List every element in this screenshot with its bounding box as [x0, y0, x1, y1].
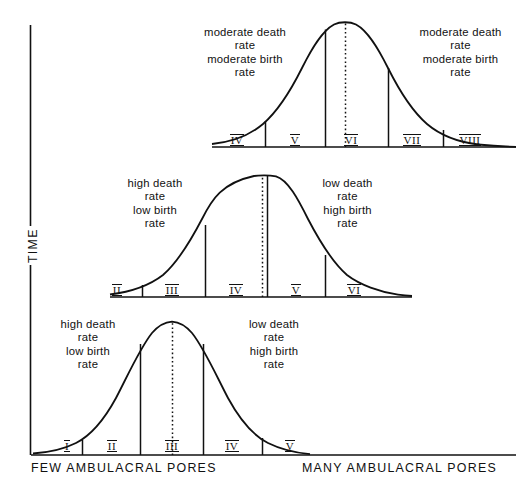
- numeral-bottom-4: V: [278, 440, 302, 452]
- numeral-top-1: V: [283, 134, 307, 146]
- annotation-top-right: moderate death rate moderate birth rate: [398, 26, 523, 80]
- numeral-middle-2: IV: [224, 284, 248, 296]
- numeral-top-3: VII: [400, 134, 424, 146]
- numeral-middle-0: II: [105, 284, 129, 296]
- numeral-middle-3: V: [284, 284, 308, 296]
- annotation-bottom-left: high death rate low birth rate: [28, 318, 148, 372]
- annotation-middle-left: high death rate low birth rate: [95, 177, 215, 231]
- numeral-top-2: VI: [339, 134, 363, 146]
- x-axis-right-label: MANY AMBULACRAL PORES: [302, 461, 497, 475]
- numeral-bottom-3: IV: [220, 440, 244, 452]
- numeral-middle-1: III: [160, 284, 184, 296]
- numeral-bottom-2: III: [160, 440, 184, 452]
- annotation-top-left: moderate death rate moderate birth rate: [180, 26, 310, 80]
- numeral-bottom-1: II: [100, 440, 124, 452]
- numeral-top-0: IV: [225, 134, 249, 146]
- annotation-middle-right: low death rate high birth rate: [290, 177, 405, 231]
- numeral-middle-4: VI: [342, 284, 366, 296]
- numeral-bottom-0: I: [55, 440, 79, 452]
- x-axis-left-label: FEW AMBULACRAL PORES: [31, 461, 217, 475]
- numeral-top-4: VIII: [456, 134, 484, 146]
- time-axis-label: TIME: [25, 226, 41, 265]
- annotation-bottom-right: low death rate high birth rate: [215, 318, 333, 372]
